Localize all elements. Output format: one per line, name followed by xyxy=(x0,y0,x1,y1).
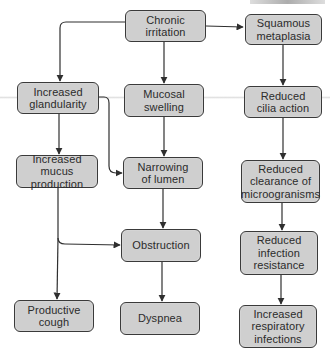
node-label: Narrowing of lumen xyxy=(137,161,188,186)
node-label: Reduced cilia action xyxy=(257,90,310,115)
edge-chronic-to-squamous xyxy=(206,26,243,27)
edge-mucus-to-obstruction xyxy=(58,188,120,245)
node-reduced-clearance-of-microorganisms: Reduced clearance of microogranisms xyxy=(241,160,320,203)
node-squamous-metaplasia: Squamous metaplasia xyxy=(245,14,322,45)
node-label: Mucosal swelling xyxy=(143,88,185,113)
node-obstruction: Obstruction xyxy=(121,229,201,262)
edge-glandularity-to-narrowing xyxy=(99,97,122,173)
node-label: Chronic irritation xyxy=(145,14,185,39)
node-mucosal-swelling: Mucosal swelling xyxy=(124,84,204,117)
node-productive-cough: Productive cough xyxy=(14,300,94,332)
node-increased-mucus-production: Increased mucus production xyxy=(16,155,98,188)
node-label: Squamous metaplasia xyxy=(256,17,310,42)
node-label: Dyspnea xyxy=(138,312,182,325)
node-reduced-infection-resistance: Reduced infection resistance xyxy=(240,231,318,275)
node-label: Increased respiratory infections xyxy=(251,308,304,346)
node-label: Productive cough xyxy=(28,304,81,329)
node-label: Increased glandularity xyxy=(29,86,86,111)
node-narrowing-of-lumen: Narrowing of lumen xyxy=(123,157,203,189)
flow-diagram: Chronic irritation Squamous metaplasia I… xyxy=(0,0,330,352)
node-label: Reduced clearance of microogranisms xyxy=(241,163,320,201)
node-label: Obstruction xyxy=(132,239,189,252)
node-label: Increased mucus production xyxy=(19,153,95,191)
node-chronic-irritation: Chronic irritation xyxy=(125,10,206,42)
node-dyspnea: Dyspnea xyxy=(120,302,200,335)
edge-mucus-to-cough xyxy=(57,238,58,299)
node-reduced-cilia-action: Reduced cilia action xyxy=(244,86,322,118)
node-label: Reduced infection resistance xyxy=(253,234,304,272)
node-increased-glandularity: Increased glandularity xyxy=(17,82,99,114)
edge-chronic-to-glandularity xyxy=(60,22,125,81)
node-increased-respiratory-infections: Increased respiratory infections xyxy=(239,305,317,348)
